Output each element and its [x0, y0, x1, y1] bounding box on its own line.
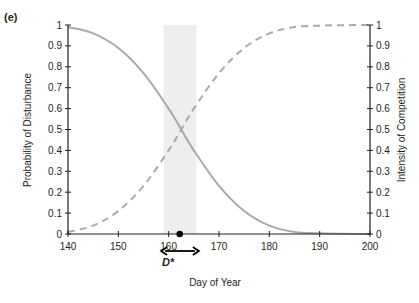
x-tick-label: 170: [211, 241, 228, 252]
competition-curve: [68, 25, 370, 232]
y-tick-label-right: 1: [376, 20, 382, 31]
optimum-dot: [176, 231, 183, 238]
x-tick-label: 180: [261, 241, 278, 252]
y-tick-label-left: 0: [56, 229, 62, 240]
y-axis-left-title: Probability of Disturbance: [22, 73, 33, 187]
d-star-label: D*: [162, 256, 175, 268]
y-tick-label-left: 0.2: [48, 187, 62, 198]
x-tick-label: 190: [311, 241, 328, 252]
y-tick-label-right: 0.9: [376, 40, 390, 51]
y-tick-label-right: 0.6: [376, 103, 390, 114]
y-tick-label-right: 0.1: [376, 208, 390, 219]
y-tick-label-right: 0.2: [376, 187, 390, 198]
y-tick-label-left: 0.7: [48, 82, 62, 93]
x-tick-label: 140: [60, 241, 77, 252]
y-tick-label-right: 0.7: [376, 82, 390, 93]
y-tick-label-left: 0.5: [48, 124, 62, 135]
shaded-window-band: [164, 25, 197, 234]
y-tick-label-left: 0.6: [48, 103, 62, 114]
y-tick-label-right: 0.4: [376, 145, 390, 156]
panel-label: (e): [4, 11, 18, 23]
y-tick-label-left: 0.9: [48, 40, 62, 51]
y-tick-label-left: 0.1: [48, 208, 62, 219]
y-tick-label-left: 0.3: [48, 166, 62, 177]
disturbance-competition-chart: 140150160170180190200000.10.10.20.20.30.…: [0, 0, 419, 303]
y-tick-label-right: 0.8: [376, 61, 390, 72]
disturbance-curve: [68, 27, 370, 234]
x-tick-label: 150: [110, 241, 127, 252]
x-axis-title: Day of Year: [189, 277, 241, 288]
y-axis-right-title: Intensity of Competition: [396, 78, 407, 183]
shaded-band-rect: [164, 25, 197, 234]
y-tick-label-right: 0: [376, 229, 382, 240]
y-tick-label-left: 1: [56, 20, 62, 31]
x-tick-label: 200: [362, 241, 379, 252]
y-tick-label-right: 0.5: [376, 124, 390, 135]
axes: 140150160170180190200000.10.10.20.20.30.…: [48, 20, 390, 253]
curves: [68, 25, 370, 234]
y-tick-label-left: 0.8: [48, 61, 62, 72]
y-tick-label-right: 0.3: [376, 166, 390, 177]
y-tick-label-left: 0.4: [48, 145, 62, 156]
